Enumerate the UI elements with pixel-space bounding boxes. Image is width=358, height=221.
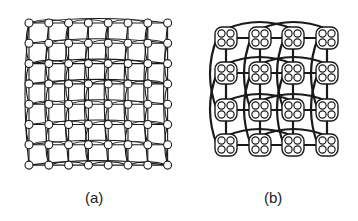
node bbox=[104, 60, 112, 68]
node bbox=[25, 121, 33, 129]
cluster bbox=[249, 99, 271, 121]
node bbox=[45, 121, 53, 129]
cluster bbox=[249, 62, 271, 84]
node bbox=[124, 19, 132, 27]
node bbox=[65, 161, 73, 169]
node bbox=[144, 141, 152, 149]
panel-a-mesh bbox=[25, 19, 172, 170]
cluster bbox=[215, 99, 237, 121]
node bbox=[45, 19, 53, 27]
node bbox=[84, 39, 92, 47]
cluster bbox=[249, 134, 271, 156]
node bbox=[164, 100, 172, 108]
cluster bbox=[316, 134, 338, 156]
node bbox=[164, 121, 172, 129]
cluster bbox=[249, 27, 271, 49]
node bbox=[124, 141, 132, 149]
node bbox=[65, 39, 73, 47]
caption-b: (b) bbox=[264, 189, 282, 206]
node bbox=[104, 80, 112, 88]
cluster bbox=[316, 27, 338, 49]
node bbox=[84, 141, 92, 149]
node bbox=[124, 80, 132, 88]
node bbox=[124, 39, 132, 47]
panel-b-clustered-mesh bbox=[210, 22, 338, 156]
node bbox=[84, 100, 92, 108]
node bbox=[164, 80, 172, 88]
node bbox=[124, 100, 132, 108]
cluster bbox=[316, 99, 338, 121]
node bbox=[65, 121, 73, 129]
node bbox=[164, 39, 172, 47]
cluster bbox=[282, 27, 304, 49]
node bbox=[45, 100, 53, 108]
node bbox=[25, 161, 33, 169]
node bbox=[164, 161, 172, 169]
node bbox=[84, 19, 92, 27]
node bbox=[25, 100, 33, 108]
node bbox=[84, 60, 92, 68]
cluster bbox=[215, 134, 237, 156]
node bbox=[65, 141, 73, 149]
node bbox=[45, 141, 53, 149]
cluster bbox=[215, 27, 237, 49]
node bbox=[144, 60, 152, 68]
node bbox=[104, 100, 112, 108]
node bbox=[84, 161, 92, 169]
node bbox=[104, 121, 112, 129]
network-diagram bbox=[0, 0, 358, 221]
node bbox=[104, 39, 112, 47]
node bbox=[104, 141, 112, 149]
node bbox=[45, 80, 53, 88]
node bbox=[25, 60, 33, 68]
node bbox=[25, 39, 33, 47]
cluster bbox=[316, 62, 338, 84]
node bbox=[25, 19, 33, 27]
cluster bbox=[282, 99, 304, 121]
cluster bbox=[282, 134, 304, 156]
node bbox=[164, 19, 172, 27]
node bbox=[144, 161, 152, 169]
node bbox=[144, 19, 152, 27]
node bbox=[65, 80, 73, 88]
node bbox=[65, 60, 73, 68]
node bbox=[144, 100, 152, 108]
node bbox=[144, 121, 152, 129]
node bbox=[84, 80, 92, 88]
node bbox=[164, 141, 172, 149]
node bbox=[124, 60, 132, 68]
node bbox=[25, 141, 33, 149]
node bbox=[45, 60, 53, 68]
node bbox=[144, 80, 152, 88]
node bbox=[164, 60, 172, 68]
cluster bbox=[282, 62, 304, 84]
node bbox=[25, 80, 33, 88]
caption-a: (a) bbox=[85, 189, 103, 206]
node bbox=[124, 121, 132, 129]
node bbox=[84, 121, 92, 129]
cluster bbox=[215, 62, 237, 84]
node bbox=[104, 161, 112, 169]
node bbox=[65, 19, 73, 27]
node bbox=[65, 100, 73, 108]
node bbox=[45, 39, 53, 47]
node bbox=[124, 161, 132, 169]
node bbox=[144, 39, 152, 47]
node bbox=[104, 19, 112, 27]
node bbox=[45, 161, 53, 169]
